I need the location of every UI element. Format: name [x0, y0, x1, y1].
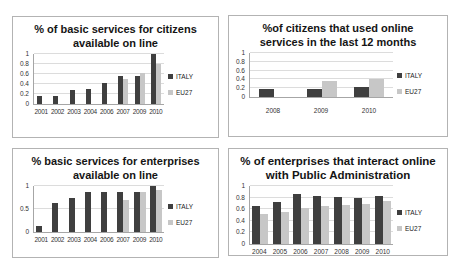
chart-panel-citizens-services-available: % of basic services for citizens availab…	[12, 16, 219, 138]
x-tick-label: 2002	[49, 236, 65, 243]
plot-area	[33, 186, 164, 233]
x-tick-label: 2001	[33, 236, 49, 243]
y-tick-label: 0.4	[20, 80, 29, 87]
bar-italy	[85, 192, 91, 232]
x-tick-label: 2004	[82, 236, 98, 243]
bar-group	[311, 186, 331, 244]
y-tick-label: 0.6	[236, 67, 245, 74]
x-tick-label: 2004	[249, 248, 270, 255]
legend-swatch-icon	[397, 89, 402, 94]
bar-group	[332, 186, 352, 244]
x-tick-label: 2009	[352, 248, 373, 255]
x-tick-label: 2005	[270, 248, 291, 255]
bar-group	[34, 54, 50, 104]
y-tick-label: 1	[25, 50, 29, 57]
y-axis: 00.51	[15, 186, 33, 232]
bar-group	[132, 54, 148, 104]
legend-label: EU27	[405, 88, 421, 95]
bar-eu27	[301, 208, 309, 244]
bar-group	[83, 54, 99, 104]
legend-item: EU27	[168, 89, 214, 96]
bar-italy	[293, 194, 301, 244]
legend-swatch-icon	[397, 210, 402, 215]
chart-area: 00.20.40.60.81 2001200220032004200620072…	[13, 54, 218, 115]
y-tick-label: 0.4	[236, 75, 245, 82]
plot-column: 20012002200320042006200720092010	[33, 54, 164, 115]
bar-eu27	[281, 212, 289, 244]
chart-area: 00.20.40.60.81 2004200520062007200820092…	[229, 186, 447, 255]
bar-group	[99, 186, 115, 232]
bar-italy	[101, 192, 107, 232]
bar-group	[34, 186, 50, 232]
legend: ITALYEU27	[164, 186, 214, 243]
chart-title: % of enterprises that interact online wi…	[240, 154, 436, 182]
legend: ITALYEU27	[164, 54, 214, 115]
x-axis-labels: 20012002200320042006200720092010	[33, 236, 164, 243]
bar-eu27	[123, 79, 128, 104]
bar-group	[291, 186, 311, 244]
bar-eu27	[140, 192, 146, 232]
y-tick-label: 0.6	[236, 205, 245, 212]
legend: ITALYEU27	[393, 186, 443, 255]
legend-swatch-icon	[168, 74, 173, 79]
x-tick-label: 2009	[131, 236, 147, 243]
bar-eu27	[156, 64, 161, 104]
y-tick-label: 1	[241, 49, 245, 56]
x-tick-label: 2006	[290, 248, 311, 255]
x-tick-label: 2010	[148, 108, 164, 115]
plot-column: 200820092010	[249, 53, 393, 114]
y-tick-label: 1	[241, 182, 245, 189]
chart-title: %of citizens that used online services i…	[246, 21, 431, 49]
bar-group	[352, 186, 372, 244]
bar-eu27	[260, 214, 268, 244]
bar-eu27	[140, 73, 145, 105]
legend-label: ITALY	[176, 203, 193, 210]
y-tick-label: 0	[25, 228, 29, 235]
chart-panel-enterprises-interact-pa: % of enterprises that interact online wi…	[228, 148, 448, 256]
y-tick-label: 1	[25, 182, 29, 189]
bar-group	[250, 53, 298, 97]
x-tick-label: 2001	[33, 108, 49, 115]
plot-area	[249, 186, 393, 245]
bar-italy	[334, 197, 342, 244]
chart-panel-citizens-used-online: %of citizens that used online services i…	[228, 15, 448, 137]
legend-label: ITALY	[405, 209, 422, 216]
x-tick-label: 2006	[99, 108, 115, 115]
bar-italy	[102, 83, 107, 105]
chart-area: 00.20.40.60.81 200820092010 ITALYEU27	[229, 53, 447, 114]
bar-eu27	[321, 206, 329, 244]
legend-label: EU27	[176, 89, 192, 96]
bar-italy	[86, 89, 91, 105]
chart-title: % basic services for enterprises availab…	[21, 154, 211, 182]
legend-label: ITALY	[405, 72, 422, 79]
legend-item: ITALY	[397, 209, 443, 216]
legend-item: ITALY	[168, 73, 214, 80]
legend-label: EU27	[405, 225, 421, 232]
x-tick-label: 2003	[66, 236, 82, 243]
y-tick-label: 0.2	[20, 90, 29, 97]
x-tick-label: 2009	[131, 108, 147, 115]
bar-group	[115, 186, 131, 232]
bar-eu27	[383, 201, 391, 245]
x-tick-label: 2009	[297, 107, 345, 114]
bar-group	[373, 186, 393, 244]
bar-italy	[70, 90, 75, 104]
bar-group	[50, 54, 66, 104]
bar-italy	[313, 196, 321, 244]
y-tick-label: 0.8	[236, 194, 245, 201]
bar-eu27	[156, 190, 162, 232]
chart-title: % of basic services for citizens availab…	[21, 22, 211, 50]
legend-swatch-icon	[397, 226, 402, 231]
y-tick-label: 0.5	[20, 205, 29, 212]
x-tick-label: 2007	[311, 248, 332, 255]
y-tick-label: 0	[25, 100, 29, 107]
legend-item: EU27	[168, 219, 214, 226]
bar-italy	[375, 196, 383, 244]
legend-item: EU27	[397, 88, 443, 95]
bar-italy	[354, 87, 369, 97]
x-tick-label: 2007	[115, 108, 131, 115]
legend: ITALYEU27	[393, 53, 443, 114]
bar-italy	[354, 198, 362, 244]
chart-area: 00.51 20012002200320042006200720092010 I…	[13, 186, 218, 243]
x-tick-label: 2003	[66, 108, 82, 115]
